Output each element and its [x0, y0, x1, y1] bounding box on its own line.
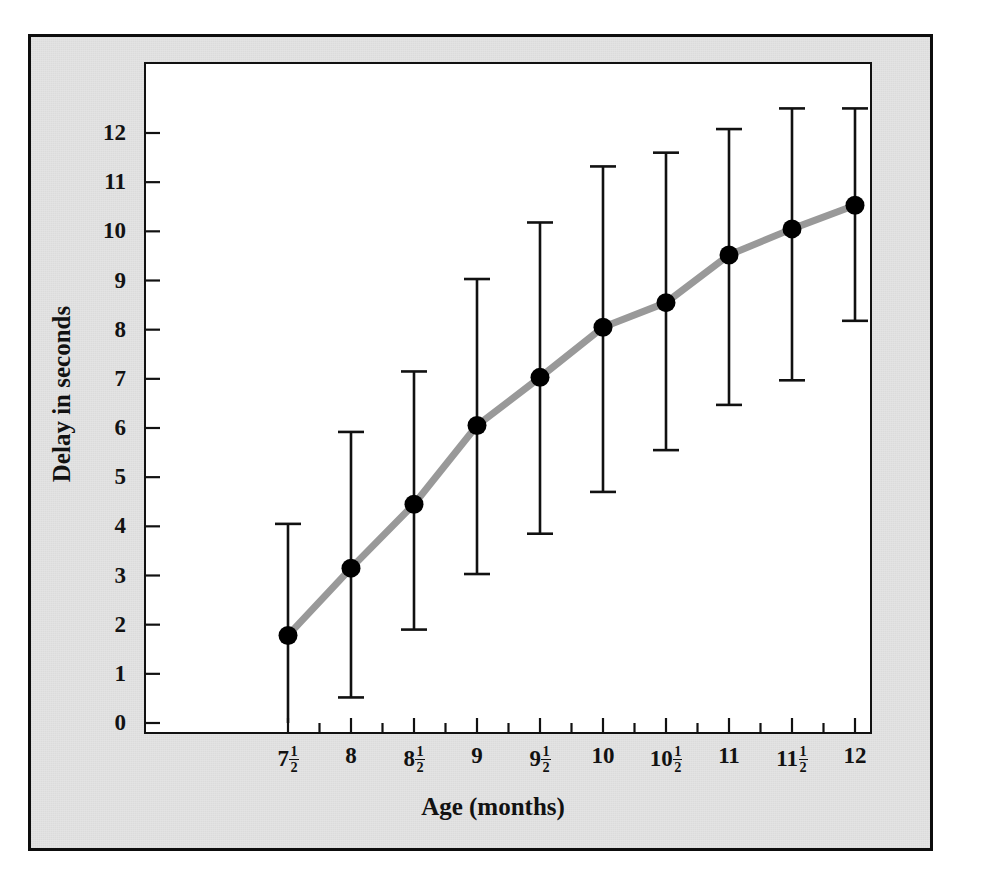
y-tick-label: 12 [86, 121, 126, 144]
y-tick-label: 8 [86, 318, 126, 341]
x-tick-label: 1112 [760, 744, 824, 774]
data-point-marker [342, 559, 361, 578]
y-tick-label: 4 [86, 514, 126, 537]
x-tick-label: 812 [382, 744, 446, 774]
data-point-marker [594, 318, 613, 337]
data-point-marker [279, 626, 298, 645]
series-line-mean-delay [288, 205, 855, 635]
x-axis-title: Age (months) [0, 793, 986, 821]
data-point-marker [468, 416, 487, 435]
y-tick-label: 7 [86, 367, 126, 390]
x-tick-label: 912 [508, 744, 572, 774]
y-tick-label: 3 [86, 564, 126, 587]
y-axis-title: Delay in seconds [48, 214, 76, 574]
y-tick-label: 2 [86, 613, 126, 636]
error-bars-group [275, 108, 868, 723]
data-point-markers [279, 196, 865, 645]
y-tick-label: 0 [86, 711, 126, 734]
y-tick-label: 1 [86, 662, 126, 685]
data-point-marker [783, 219, 802, 238]
y-tick-label: 5 [86, 465, 126, 488]
x-tick-label: 712 [256, 744, 320, 774]
x-tick-label: 9 [445, 744, 509, 767]
x-tick-label: 10 [571, 744, 635, 767]
data-point-marker [531, 368, 550, 387]
x-tick-label: 1012 [634, 744, 698, 774]
x-axis-ticks [288, 718, 855, 734]
x-tick-label: 11 [697, 744, 761, 767]
y-tick-label: 6 [86, 416, 126, 439]
y-axis-ticks [144, 133, 160, 723]
figure-root: 0123456789101112 71288129912101012111112… [0, 0, 986, 896]
x-tick-label: 12 [823, 744, 887, 767]
y-tick-label: 11 [86, 170, 126, 193]
x-tick-label: 8 [319, 744, 383, 767]
y-tick-label: 9 [86, 269, 126, 292]
data-point-marker [657, 293, 676, 312]
data-point-marker [846, 196, 865, 215]
data-point-marker [405, 495, 424, 514]
data-point-marker [720, 245, 739, 264]
y-tick-label: 10 [86, 219, 126, 242]
